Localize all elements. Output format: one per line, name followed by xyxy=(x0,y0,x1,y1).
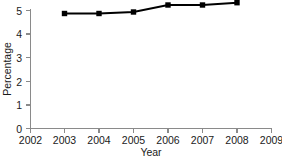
y-axis-tick-labels: 5 4 3 2 1 0 xyxy=(16,5,22,135)
x-axis-ticks xyxy=(31,129,272,134)
x-tick-label-2006: 2006 xyxy=(156,134,180,146)
x-tick-label-2005: 2005 xyxy=(122,134,146,146)
y-axis-title: Percentage xyxy=(1,42,13,96)
data-point-2008 xyxy=(234,0,239,5)
y-tick-label-3: 3 xyxy=(16,52,22,64)
x-axis-tick-labels: 2002 2003 2004 2005 2006 2007 2008 2009 xyxy=(19,134,282,146)
data-series-line xyxy=(65,3,238,14)
data-point-2006 xyxy=(165,2,170,7)
x-tick-label-2002: 2002 xyxy=(19,134,43,146)
y-tick-label-5: 5 xyxy=(16,5,22,17)
x-tick-label-2004: 2004 xyxy=(87,134,111,146)
chart-plot-area: 5 4 3 2 1 0 2002 2003 2004 2005 2006 200… xyxy=(0,0,282,159)
y-tick-label-1: 1 xyxy=(16,99,22,111)
x-axis-title: Year xyxy=(140,146,162,158)
line-chart-figure: 5 4 3 2 1 0 2002 2003 2004 2005 2006 200… xyxy=(0,0,282,159)
y-axis-ticks xyxy=(26,11,31,129)
y-tick-label-4: 4 xyxy=(16,28,22,40)
y-tick-label-0: 0 xyxy=(16,123,22,135)
x-tick-label-2003: 2003 xyxy=(53,134,77,146)
x-tick-label-2008: 2008 xyxy=(225,134,249,146)
data-point-2004 xyxy=(96,11,101,16)
data-point-2007 xyxy=(200,2,205,7)
data-point-2003 xyxy=(62,11,67,16)
y-tick-label-2: 2 xyxy=(16,76,22,88)
x-tick-label-2009: 2009 xyxy=(260,134,282,146)
x-tick-label-2007: 2007 xyxy=(191,134,215,146)
data-point-2005 xyxy=(131,9,136,14)
